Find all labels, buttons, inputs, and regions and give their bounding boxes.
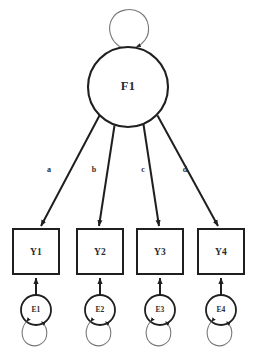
loading-label-a: a xyxy=(47,165,51,174)
error-term-e3[interactable]: E3 xyxy=(145,295,175,325)
indicator-label-y2: Y2 xyxy=(94,247,106,257)
indicator-y4[interactable]: Y4 xyxy=(198,229,244,274)
indicator-y3[interactable]: Y3 xyxy=(137,229,183,274)
indicator-y1[interactable]: Y1 xyxy=(13,229,59,274)
latent-factor-f1[interactable]: F1 xyxy=(88,47,168,127)
error-label-e1: E1 xyxy=(32,305,41,314)
indicator-label-y4: Y4 xyxy=(215,247,227,257)
loading-path-b[interactable] xyxy=(99,126,115,227)
error-term-e1[interactable]: E1 xyxy=(21,295,51,325)
loading-path-c[interactable] xyxy=(144,125,160,227)
loading-path-d[interactable] xyxy=(158,116,219,227)
loading-label-d: d xyxy=(183,165,188,174)
factor-variance-loop xyxy=(110,10,149,47)
indicator-label-y1: Y1 xyxy=(30,247,42,257)
error-label-e3: E3 xyxy=(156,305,165,314)
loading-label-c: c xyxy=(141,165,145,174)
indicator-y2[interactable]: Y2 xyxy=(77,229,123,274)
error-label-e4: E4 xyxy=(217,305,226,314)
error-term-e4[interactable]: E4 xyxy=(206,295,236,325)
diagram-canvas: F1 a b c d Y1 Y2 Y3 xyxy=(0,0,255,357)
loading-label-b: b xyxy=(92,165,97,174)
error-label-e2: E2 xyxy=(96,305,105,314)
sem-path-diagram: F1 a b c d Y1 Y2 Y3 xyxy=(0,0,255,357)
error-term-e2[interactable]: E2 xyxy=(85,295,115,325)
factor-label-f1: F1 xyxy=(121,79,135,93)
indicator-label-y3: Y3 xyxy=(154,247,166,257)
